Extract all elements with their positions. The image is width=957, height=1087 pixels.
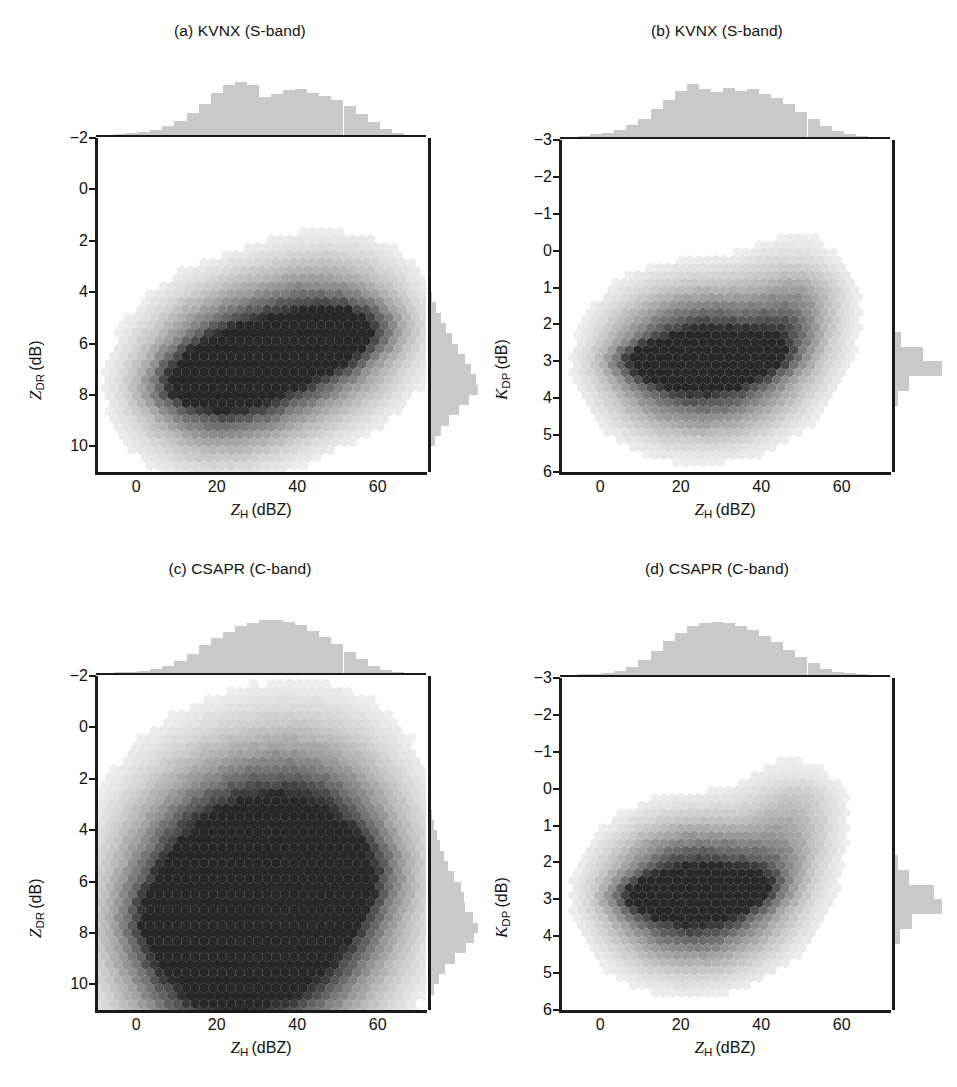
hist-bar — [892, 899, 942, 914]
hist-bar — [892, 870, 909, 885]
hist-bar — [747, 630, 759, 675]
y-tick-label: −1 — [534, 743, 552, 761]
hist-bar — [771, 642, 783, 675]
y-axis-subscript: DP — [500, 911, 512, 927]
y-tick-label: 6 — [543, 1001, 552, 1019]
hist-bar — [638, 660, 650, 675]
hist-bar — [675, 633, 687, 675]
y-tick-label: 4 — [543, 927, 552, 945]
hist-bar — [783, 650, 795, 675]
panel-d: (d) CSAPR (C-band)546543210−1−2−30204060… — [0, 0, 957, 1087]
plot-canvas-d — [560, 678, 890, 1010]
radar-polarimetric-figure: (a) KVNX (S-band)1231086420−20204060ZH (… — [0, 0, 957, 1087]
hist-bar — [892, 885, 934, 900]
hist-bar — [759, 636, 771, 675]
y-tick-label: 5 — [543, 964, 552, 982]
x-tick-label: 0 — [596, 1016, 605, 1034]
hist-bar — [795, 657, 807, 675]
hist-bar — [735, 626, 747, 675]
hist-bar — [808, 663, 820, 675]
x-axis-subscript: H — [704, 1046, 712, 1058]
x-tick-label: 60 — [833, 1016, 851, 1034]
hist-bar — [699, 623, 711, 675]
x-axis-label-d: ZH (dBZ) — [560, 1038, 890, 1058]
histogram-baseline — [892, 678, 895, 1010]
y-tick-label: −3 — [534, 669, 552, 687]
marginal-histogram-right-d — [892, 678, 948, 1010]
marginal-histogram-top-d — [560, 618, 890, 675]
y-tick-label: −2 — [534, 706, 552, 724]
plot-area-d — [560, 678, 890, 1010]
hist-bar — [892, 914, 912, 929]
density-map-d — [560, 678, 890, 1010]
y-tick-label: 3 — [543, 890, 552, 908]
hist-bar — [711, 622, 723, 675]
hist-bar — [663, 641, 675, 675]
y-axis-label-d: KDP (dB) — [492, 877, 512, 938]
x-axis-symbol: Z — [695, 1038, 704, 1057]
hist-bar — [687, 626, 699, 675]
y-axis-symbol: K — [492, 927, 511, 938]
x-axis-unit: (dBZ) — [715, 1039, 755, 1056]
x-tick-label: 40 — [752, 1016, 770, 1034]
y-axis-spine — [559, 678, 562, 1010]
histogram-baseline — [560, 675, 890, 678]
x-tick-label: 20 — [672, 1016, 690, 1034]
y-tick-label: 0 — [543, 780, 552, 798]
y-axis-unit: (dB) — [493, 877, 510, 907]
y-tick-label: 1 — [543, 817, 552, 835]
hist-bar — [651, 651, 663, 675]
y-tick-label: 2 — [543, 853, 552, 871]
panel-title-d: (d) CSAPR (C-band) — [477, 560, 957, 578]
hist-bar — [723, 623, 735, 675]
x-axis-spine — [559, 1010, 891, 1013]
